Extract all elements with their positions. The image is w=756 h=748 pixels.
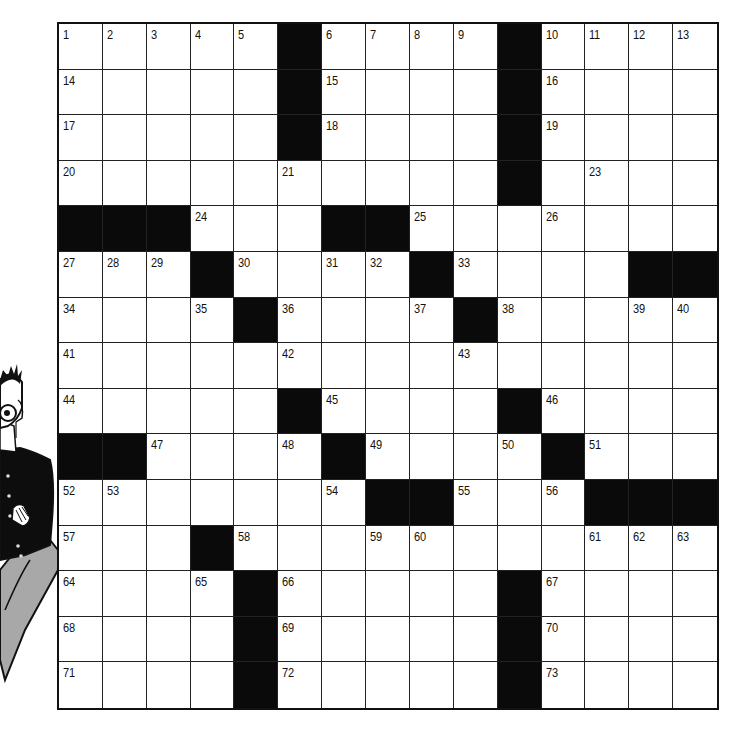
crossword-cell[interactable]: 42: [278, 343, 322, 389]
crossword-cell[interactable]: 58: [234, 526, 278, 572]
crossword-cell[interactable]: [191, 115, 235, 161]
crossword-cell[interactable]: 54: [322, 480, 366, 526]
crossword-cell[interactable]: 56: [542, 480, 586, 526]
crossword-cell[interactable]: [410, 662, 454, 708]
crossword-cell[interactable]: [147, 298, 191, 344]
crossword-cell[interactable]: [542, 526, 586, 572]
crossword-cell[interactable]: [585, 571, 629, 617]
crossword-cell[interactable]: [278, 206, 322, 252]
crossword-cell[interactable]: [366, 298, 410, 344]
crossword-cell[interactable]: [234, 206, 278, 252]
crossword-cell[interactable]: [278, 480, 322, 526]
crossword-cell[interactable]: [410, 434, 454, 480]
crossword-cell[interactable]: [366, 571, 410, 617]
crossword-cell[interactable]: 25: [410, 206, 454, 252]
crossword-cell[interactable]: 35: [191, 298, 235, 344]
crossword-cell[interactable]: [542, 343, 586, 389]
crossword-cell[interactable]: 45: [322, 389, 366, 435]
crossword-cell[interactable]: 51: [585, 434, 629, 480]
crossword-cell[interactable]: 11: [585, 24, 629, 70]
crossword-cell[interactable]: [103, 662, 147, 708]
crossword-cell[interactable]: [234, 70, 278, 116]
crossword-cell[interactable]: [629, 161, 673, 207]
crossword-cell[interactable]: 20: [59, 161, 103, 207]
crossword-cell[interactable]: [629, 662, 673, 708]
crossword-cell[interactable]: [585, 389, 629, 435]
crossword-cell[interactable]: [454, 70, 498, 116]
crossword-cell[interactable]: [147, 70, 191, 116]
crossword-cell[interactable]: [147, 480, 191, 526]
crossword-cell[interactable]: [673, 343, 717, 389]
crossword-cell[interactable]: [542, 298, 586, 344]
crossword-cell[interactable]: 62: [629, 526, 673, 572]
crossword-cell[interactable]: [191, 70, 235, 116]
crossword-cell[interactable]: 17: [59, 115, 103, 161]
crossword-cell[interactable]: [147, 115, 191, 161]
crossword-cell[interactable]: 31: [322, 252, 366, 298]
crossword-cell[interactable]: [629, 70, 673, 116]
crossword-cell[interactable]: 55: [454, 480, 498, 526]
crossword-cell[interactable]: 46: [542, 389, 586, 435]
crossword-cell[interactable]: 50: [498, 434, 542, 480]
crossword-cell[interactable]: [454, 434, 498, 480]
crossword-cell[interactable]: 30: [234, 252, 278, 298]
crossword-cell[interactable]: [454, 115, 498, 161]
crossword-cell[interactable]: [673, 571, 717, 617]
crossword-cell[interactable]: [673, 434, 717, 480]
crossword-cell[interactable]: 18: [322, 115, 366, 161]
crossword-cell[interactable]: [673, 617, 717, 663]
crossword-cell[interactable]: [410, 161, 454, 207]
crossword-cell[interactable]: [103, 617, 147, 663]
crossword-cell[interactable]: 24: [191, 206, 235, 252]
crossword-cell[interactable]: [147, 389, 191, 435]
crossword-cell[interactable]: [410, 389, 454, 435]
crossword-cell[interactable]: [234, 480, 278, 526]
crossword-cell[interactable]: [585, 617, 629, 663]
crossword-cell[interactable]: 21: [278, 161, 322, 207]
crossword-cell[interactable]: [498, 206, 542, 252]
crossword-cell[interactable]: [542, 252, 586, 298]
crossword-cell[interactable]: 47: [147, 434, 191, 480]
crossword-cell[interactable]: [410, 571, 454, 617]
crossword-cell[interactable]: 57: [59, 526, 103, 572]
crossword-cell[interactable]: [322, 298, 366, 344]
crossword-cell[interactable]: 36: [278, 298, 322, 344]
crossword-cell[interactable]: [191, 389, 235, 435]
crossword-cell[interactable]: 10: [542, 24, 586, 70]
crossword-cell[interactable]: [234, 115, 278, 161]
crossword-cell[interactable]: [366, 70, 410, 116]
crossword-cell[interactable]: [629, 206, 673, 252]
crossword-cell[interactable]: 3: [147, 24, 191, 70]
crossword-cell[interactable]: 27: [59, 252, 103, 298]
crossword-cell[interactable]: [454, 617, 498, 663]
crossword-cell[interactable]: 44: [59, 389, 103, 435]
crossword-cell[interactable]: [629, 617, 673, 663]
crossword-cell[interactable]: [498, 480, 542, 526]
crossword-cell[interactable]: [147, 617, 191, 663]
crossword-cell[interactable]: [103, 571, 147, 617]
crossword-cell[interactable]: [629, 389, 673, 435]
crossword-cell[interactable]: [366, 115, 410, 161]
crossword-cell[interactable]: [629, 571, 673, 617]
crossword-cell[interactable]: [366, 617, 410, 663]
crossword-cell[interactable]: [673, 161, 717, 207]
crossword-cell[interactable]: 5: [234, 24, 278, 70]
crossword-cell[interactable]: 26: [542, 206, 586, 252]
crossword-cell[interactable]: [454, 526, 498, 572]
crossword-cell[interactable]: [103, 526, 147, 572]
crossword-cell[interactable]: 13: [673, 24, 717, 70]
crossword-cell[interactable]: [366, 389, 410, 435]
crossword-cell[interactable]: 68: [59, 617, 103, 663]
crossword-cell[interactable]: [234, 389, 278, 435]
crossword-cell[interactable]: [542, 161, 586, 207]
crossword-cell[interactable]: [147, 161, 191, 207]
crossword-cell[interactable]: [585, 115, 629, 161]
crossword-cell[interactable]: [410, 343, 454, 389]
crossword-cell[interactable]: [629, 343, 673, 389]
crossword-cell[interactable]: [147, 571, 191, 617]
crossword-cell[interactable]: 49: [366, 434, 410, 480]
crossword-cell[interactable]: [322, 343, 366, 389]
crossword-cell[interactable]: 1: [59, 24, 103, 70]
crossword-cell[interactable]: [585, 252, 629, 298]
crossword-cell[interactable]: [673, 206, 717, 252]
